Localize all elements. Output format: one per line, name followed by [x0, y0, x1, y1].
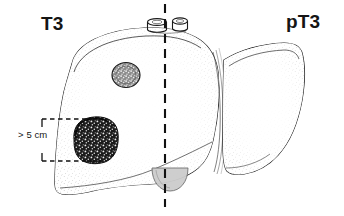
- left-hepatic-lobe: [50, 20, 230, 200]
- large-tumor-over-5cm: [74, 117, 118, 164]
- small-satellite-tumor: [112, 63, 140, 88]
- tumor-size-label: > 5 cm: [18, 129, 47, 140]
- stage-label-pt3: pT3: [286, 11, 320, 33]
- gallbladder: [152, 168, 188, 191]
- liver-staging-figure: T3 pT3 > 5 cm: [0, 0, 344, 216]
- stage-label-t3: T3: [41, 13, 64, 35]
- right-hepatic-lobe: [215, 35, 315, 185]
